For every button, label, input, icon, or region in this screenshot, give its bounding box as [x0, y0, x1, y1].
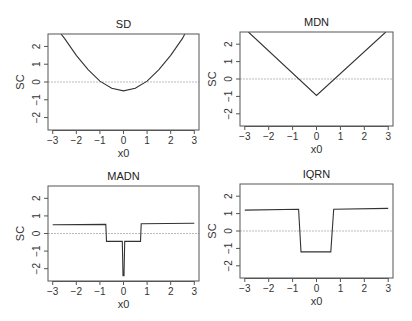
y-tick-label: 2 — [223, 41, 234, 47]
x-tick-label: 3 — [385, 283, 391, 294]
y-tick-label: 0 — [31, 230, 42, 236]
x-tick-label: 3 — [192, 286, 198, 297]
y-tick-label: 0 — [31, 79, 42, 85]
y-tick-label: −2 — [31, 263, 42, 275]
x-tick-label: 1 — [144, 135, 150, 146]
figure: SD−3−2−10123−2−1012x0SCMDN−3−2−10123−2−1… — [0, 0, 412, 321]
y-tick-label: 2 — [223, 193, 234, 199]
x-tick-label: 0 — [121, 135, 127, 146]
y-tick-label: −1 — [223, 242, 234, 254]
x-tick-label: 2 — [168, 135, 174, 146]
y-axis-label: SC — [206, 223, 218, 238]
x-tick-label: −1 — [287, 131, 299, 142]
y-tick-label: 0 — [223, 228, 234, 234]
y-tick-label: −2 — [223, 260, 234, 272]
chart-title: MADN — [107, 170, 139, 182]
y-axis-label: SC — [14, 74, 26, 89]
x-tick-label: 1 — [144, 286, 150, 297]
y-tick-label: 1 — [31, 213, 42, 219]
x-tick-label: −1 — [94, 286, 106, 297]
x-tick-label: −3 — [239, 283, 251, 294]
x-tick-label: −2 — [263, 283, 275, 294]
x-tick-label: 0 — [314, 283, 320, 294]
x-tick-label: 2 — [168, 286, 174, 297]
x-tick-label: 3 — [385, 131, 391, 142]
y-tick-label: −1 — [31, 94, 42, 106]
y-tick-label: −1 — [223, 90, 234, 102]
x-tick-label: −2 — [263, 131, 275, 142]
x-axis-label: x0 — [311, 295, 323, 307]
y-tick-label: −2 — [31, 111, 42, 123]
panel-mdn: MDN−3−2−10123−2−1012x0SC — [206, 16, 393, 155]
series-line — [53, 223, 195, 275]
x-axis-label: x0 — [118, 298, 130, 310]
x-tick-label: 0 — [121, 286, 127, 297]
y-tick-label: −1 — [31, 245, 42, 257]
y-tick-label: 0 — [223, 76, 234, 82]
x-tick-label: −1 — [287, 283, 299, 294]
chart-title: IQRN — [303, 168, 331, 180]
x-tick-label: −3 — [239, 131, 251, 142]
chart-title: SD — [116, 18, 131, 30]
y-tick-label: 1 — [223, 210, 234, 216]
x-tick-label: 1 — [338, 283, 344, 294]
y-tick-label: 2 — [31, 195, 42, 201]
x-tick-label: 2 — [362, 283, 368, 294]
x-tick-label: 3 — [192, 135, 198, 146]
chart-title: MDN — [304, 16, 329, 28]
x-tick-label: −3 — [47, 135, 59, 146]
x-tick-label: 2 — [362, 131, 368, 142]
y-tick-label: 2 — [31, 43, 42, 49]
x-tick-label: −3 — [47, 286, 59, 297]
x-tick-label: −2 — [71, 135, 83, 146]
panel-sd: SD−3−2−10123−2−1012x0SC — [14, 18, 199, 159]
x-axis-label: x0 — [311, 143, 323, 155]
y-tick-label: −2 — [223, 108, 234, 120]
x-tick-label: 0 — [314, 131, 320, 142]
series-line — [245, 208, 388, 252]
x-tick-label: −1 — [94, 135, 106, 146]
y-tick-label: 1 — [31, 61, 42, 67]
y-axis-label: SC — [14, 226, 26, 241]
panel-madn: MADN−3−2−10123−2−1012x0SC — [14, 170, 199, 310]
x-tick-label: −2 — [71, 286, 83, 297]
x-axis-label: x0 — [118, 147, 130, 159]
y-tick-label: 1 — [223, 58, 234, 64]
y-axis-label: SC — [206, 71, 218, 86]
series-line — [248, 32, 385, 96]
panel-iqrn: IQRN−3−2−10123−2−1012x0SC — [206, 168, 393, 307]
x-tick-label: 1 — [338, 131, 344, 142]
